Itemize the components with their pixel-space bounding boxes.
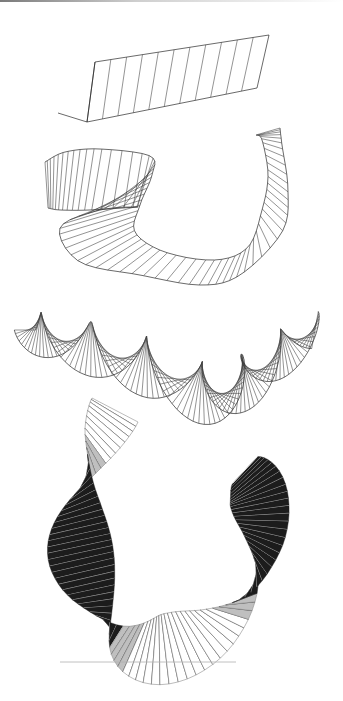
shaded-loop-drawing (47, 398, 289, 685)
bent-ribbon-drawing (45, 128, 288, 285)
flat-strip-drawing (58, 35, 269, 122)
ribbon-figure (0, 0, 343, 701)
twisted-ribbon-drawing (14, 311, 319, 424)
